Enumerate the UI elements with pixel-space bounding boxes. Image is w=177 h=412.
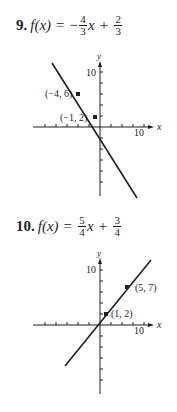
x-tick-label: 10 xyxy=(134,127,144,138)
point-label: (1, 2) xyxy=(111,308,133,320)
point-marker xyxy=(104,312,108,316)
point-marker xyxy=(76,92,80,96)
x-axis-label: x xyxy=(156,121,162,132)
function-line xyxy=(52,63,137,198)
x-axis-arrow-icon xyxy=(148,125,154,129)
y-axis-label: y xyxy=(96,51,101,61)
x-axis-label: x xyxy=(156,319,162,330)
y-axis-label: y xyxy=(96,248,101,258)
point-label: (−4, 6) xyxy=(45,88,72,100)
graph-10: (5, 7) (1, 2) 10 10 x y xyxy=(0,200,177,412)
y-axis-arrow-icon xyxy=(98,61,102,67)
x-axis-arrow-icon xyxy=(148,323,154,327)
graph-9: (−4, 6) (−1, 2) 10 10 x y xyxy=(0,0,177,210)
point-marker xyxy=(93,115,97,119)
y-tick-label: 10 xyxy=(86,264,96,275)
point-marker xyxy=(125,285,129,289)
y-axis-arrow-icon xyxy=(98,258,102,264)
x-tick-label: 10 xyxy=(134,325,144,336)
y-tick-label: 10 xyxy=(86,67,96,78)
point-label: (−1, 2) xyxy=(60,112,87,124)
point-label: (5, 7) xyxy=(135,282,157,294)
